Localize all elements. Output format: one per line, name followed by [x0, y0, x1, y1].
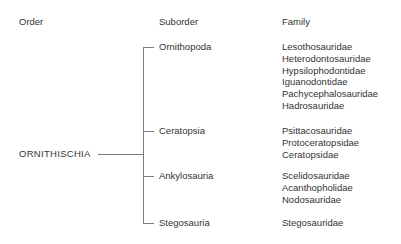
header-suborder: Suborder [159, 16, 198, 28]
suborder-ornithopoda: Ornithopoda [159, 41, 211, 53]
family-list-ornithopoda: Lesothosauridae Heterodontosauridae Hyps… [282, 41, 378, 112]
header-family: Family [282, 16, 310, 28]
suborder-ankylosauria: Ankylosauria [159, 170, 213, 182]
suborder-ceratopsia: Ceratopsia [159, 125, 205, 137]
family-item: Lesothosauridae [282, 41, 378, 53]
branch-line-ornithopoda [143, 47, 154, 48]
family-item: Stegosauridae [282, 217, 343, 229]
family-item: Hadrosauridae [282, 100, 378, 112]
family-item: Protoceratopsidae [282, 137, 359, 149]
family-item: Ceratopsidae [282, 149, 359, 161]
branch-line-ceratopsia [143, 131, 154, 132]
family-list-ceratopsia: Psittacosauridae Protoceratopsidae Cerat… [282, 125, 359, 160]
order-connector-line [98, 154, 144, 155]
family-item: Pachycephalosauridae [282, 88, 378, 100]
suborder-stegosauria: Stegosauria [159, 217, 210, 229]
family-item: Psittacosauridae [282, 125, 359, 137]
branch-line-ankylosauria [143, 176, 154, 177]
suborder-trunk-line [143, 47, 144, 224]
family-item: Iguanodontidae [282, 76, 378, 88]
family-list-ankylosauria: Scelidosauridae Acanthopholidae Nodosaur… [282, 170, 353, 205]
order-label: ORNITHISCHIA [19, 148, 91, 160]
family-item: Nodosauridae [282, 194, 353, 206]
branch-line-stegosauria [143, 223, 154, 224]
family-item: Acanthopholidae [282, 182, 353, 194]
family-list-stegosauria: Stegosauridae [282, 217, 343, 229]
header-order: Order [19, 16, 43, 28]
family-item: Heterodontosauridae [282, 53, 378, 65]
family-item: Hypsilophodontidae [282, 65, 378, 77]
family-item: Scelidosauridae [282, 170, 353, 182]
